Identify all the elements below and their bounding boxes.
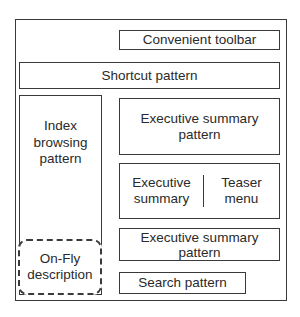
shortcut-pattern-label: Shortcut pattern bbox=[101, 68, 197, 84]
executive-summary-label: Executive summary bbox=[132, 175, 191, 207]
teaser-menu-label: Teaser menu bbox=[221, 175, 262, 207]
executive-summary-pattern-bottom-box: Executive summary pattern bbox=[119, 228, 280, 261]
on-fly-description-box: On-Fly description bbox=[18, 239, 102, 295]
search-pattern-box: Search pattern bbox=[119, 272, 246, 294]
executive-summary-pattern-top-box: Executive summary pattern bbox=[119, 98, 280, 155]
teaser-menu-cell: Teaser menu bbox=[204, 175, 279, 207]
summary-teaser-split-box: Executive summary Teaser menu bbox=[119, 163, 280, 219]
shortcut-pattern-box: Shortcut pattern bbox=[19, 62, 280, 89]
convenient-toolbar-label: Convenient toolbar bbox=[143, 32, 256, 48]
index-browsing-pattern-label: Index browsing pattern bbox=[33, 118, 87, 168]
on-fly-description-label: On-Fly description bbox=[27, 251, 92, 283]
executive-summary-cell: Executive summary bbox=[120, 175, 204, 207]
executive-summary-pattern-bottom-label: Executive summary pattern bbox=[141, 230, 259, 260]
executive-summary-pattern-top-label: Executive summary pattern bbox=[141, 111, 259, 143]
convenient-toolbar-box: Convenient toolbar bbox=[119, 30, 280, 50]
search-pattern-label: Search pattern bbox=[138, 275, 227, 291]
